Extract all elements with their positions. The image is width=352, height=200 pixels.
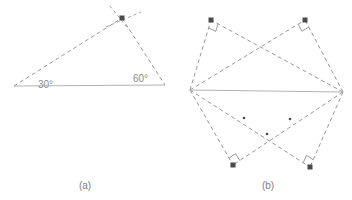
right-angle-mark-top-left: [209, 24, 218, 32]
panel-a-angle-label-30: 30°: [38, 79, 53, 90]
panel-a-apex-marker: [120, 16, 125, 21]
panel-a-base-line: [14, 85, 165, 86]
vertex-marker-bottom-left: [231, 163, 236, 168]
panel-b-base-line: [190, 90, 343, 92]
right-angle-mark-bottom-right: [303, 155, 313, 162]
panel-b-right-angle-marks: [209, 24, 314, 163]
panel-a-caption: (a): [79, 180, 91, 191]
panel-b-leg-top-left: [211, 20, 343, 92]
panel-b-midpoint-dots: [243, 117, 292, 136]
panel-b: (b): [190, 18, 343, 192]
panel-b-leg-bottom-left: [190, 90, 233, 165]
panel-b-caption: (b): [262, 180, 274, 191]
panel-a-side-left: [14, 18, 122, 86]
vertex-marker-bottom-right: [308, 165, 313, 170]
panel-b-leg-top-left: [190, 20, 211, 90]
right-angle-mark-top-right: [298, 24, 309, 31]
panel-b-leg-bottom-right: [310, 92, 343, 167]
vertex-marker-top-right: [303, 18, 308, 23]
panel-b-leg-bottom-right: [190, 90, 310, 167]
panel-a: 30° 60° (a): [14, 6, 165, 191]
midpoint-dot-2: [266, 133, 269, 136]
midpoint-dot-0: [243, 117, 246, 120]
panel-b-triangle-legs: [190, 20, 343, 167]
vertex-marker-top-left: [209, 18, 214, 23]
midpoint-dot-1: [289, 118, 292, 121]
panel-a-angle-label-60: 60°: [133, 73, 148, 84]
geometry-figure: 30° 60° (a) (b): [0, 0, 352, 200]
panel-b-leg-top-right: [190, 20, 305, 90]
right-angle-mark-bottom-left: [229, 154, 240, 161]
